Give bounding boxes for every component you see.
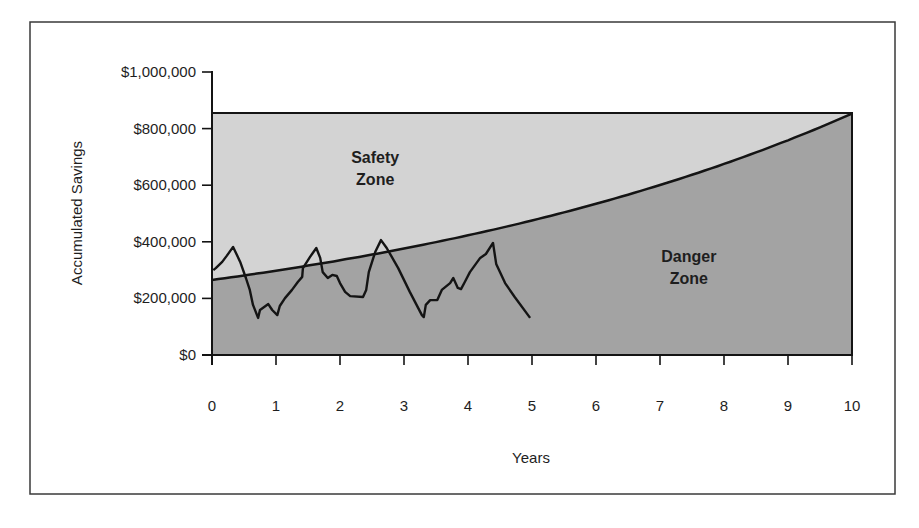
y-tick-label: $400,000: [133, 233, 196, 250]
x-tick-label: 8: [720, 397, 728, 414]
x-tick-label: 4: [464, 397, 472, 414]
y-tick-label: $0: [179, 346, 196, 363]
y-tick-label: $1,000,000: [121, 63, 196, 80]
chart-figure: $0$200,000$400,000$600,000$800,000$1,000…: [0, 0, 919, 528]
y-axis-title: Accumulated Savings: [68, 141, 85, 285]
x-tick-label: 6: [592, 397, 600, 414]
x-tick-label: 2: [336, 397, 344, 414]
x-tick-label: 9: [784, 397, 792, 414]
x-axis-title: Years: [512, 449, 550, 466]
x-tick-label: 10: [844, 397, 861, 414]
x-tick-label: 7: [656, 397, 664, 414]
x-tick-label: 0: [208, 397, 216, 414]
y-tick-label: $600,000: [133, 176, 196, 193]
savings-zone-chart: $0$200,000$400,000$600,000$800,000$1,000…: [0, 0, 919, 528]
y-tick-label: $200,000: [133, 289, 196, 306]
x-tick-label: 5: [528, 397, 536, 414]
zone-areas: [212, 113, 852, 355]
x-tick-label: 1: [272, 397, 280, 414]
x-tick-label: 3: [400, 397, 408, 414]
y-tick-label: $800,000: [133, 120, 196, 137]
